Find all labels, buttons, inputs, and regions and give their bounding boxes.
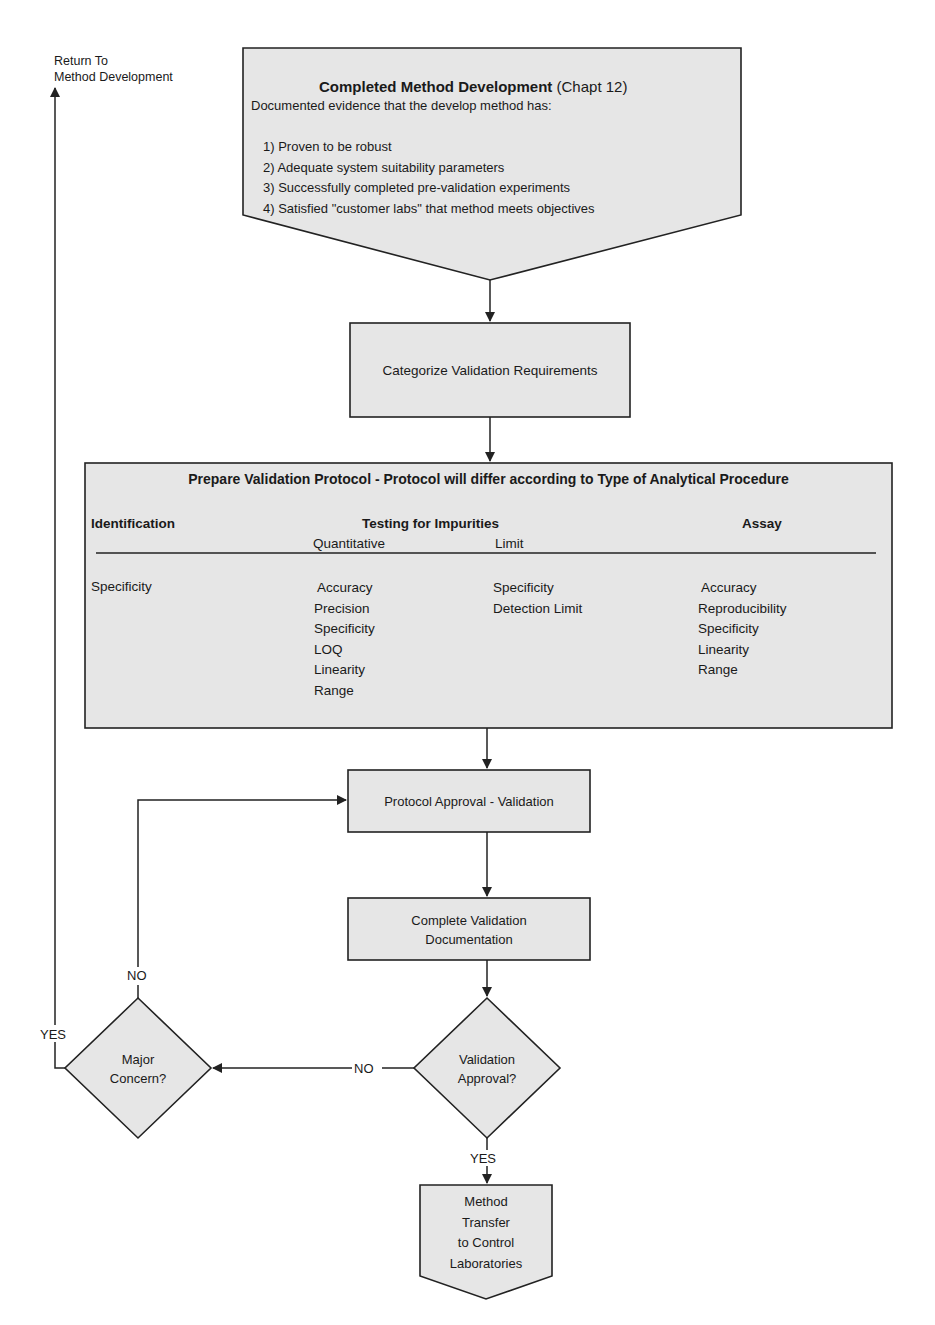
documentation-node-label: Complete Validation Documentation [348, 911, 590, 949]
end-line: Transfer [420, 1213, 552, 1234]
end-line: Method [420, 1192, 552, 1213]
assay-item: Specificity [698, 619, 787, 640]
start-node-item: 4) Satisfied "customer labs" that method… [263, 199, 595, 220]
impurities-header: Testing for Impurities [362, 515, 499, 532]
start-node-title-row: Completed Method Development (Chapt 12) [319, 78, 627, 95]
quantitative-item: Linearity [314, 660, 375, 681]
categorize-node-label: Categorize Validation Requirements [350, 362, 630, 379]
quantitative-item: Accuracy [314, 578, 375, 599]
assay-item: Range [698, 660, 787, 681]
end-node-label: Method Transfer to Control Laboratories [420, 1192, 552, 1274]
protocol-node-title: Prepare Validation Protocol - Protocol w… [85, 471, 892, 488]
approval-node-label: Protocol Approval - Validation [348, 793, 590, 810]
validation-yes-label: YES [470, 1151, 496, 1166]
concern-line2: Concern? [65, 1069, 211, 1088]
concern-decision-label: Major Concern? [65, 1050, 211, 1088]
end-line: Laboratories [420, 1254, 552, 1275]
start-node-items: 1) Proven to be robust 2) Adequate syste… [263, 137, 595, 219]
quantitative-item: Specificity [314, 619, 375, 640]
concern-no-label: NO [127, 968, 147, 983]
return-label-line2: Method Development [54, 69, 173, 85]
identification-header: Identification [91, 515, 175, 532]
quantitative-item: Range [314, 681, 375, 702]
validation-no-label: NO [354, 1061, 374, 1076]
start-node-item: 1) Proven to be robust [263, 137, 595, 158]
start-node-title: Completed Method Development [319, 78, 552, 95]
return-to-method-development-label: Return To Method Development [54, 53, 173, 85]
end-line: to Control [420, 1233, 552, 1254]
start-node-title-suffix: (Chapt 12) [557, 78, 628, 95]
quantitative-items: Accuracy Precision Specificity LOQ Linea… [314, 578, 375, 701]
start-node-item: 3) Successfully completed pre-validation… [263, 178, 595, 199]
documentation-line2: Documentation [348, 930, 590, 949]
validation-line1: Validation [414, 1050, 560, 1069]
assay-header: Assay [742, 515, 782, 532]
start-node-intro: Documented evidence that the develop met… [251, 97, 552, 114]
connector-concern-no-loop-upper [138, 800, 346, 967]
quantitative-subheader: Quantitative [313, 535, 385, 552]
validation-line2: Approval? [414, 1069, 560, 1088]
limit-item: Detection Limit [493, 599, 582, 620]
return-label-line1: Return To [54, 53, 173, 69]
identification-item: Specificity [91, 577, 152, 598]
validation-decision-label: Validation Approval? [414, 1050, 560, 1088]
limit-items: Specificity Detection Limit [493, 578, 582, 619]
connector-concern-yes-lower [55, 1042, 65, 1068]
documentation-line1: Complete Validation [348, 911, 590, 930]
limit-item: Specificity [493, 578, 582, 599]
limit-subheader: Limit [495, 535, 524, 552]
assay-item: Linearity [698, 640, 787, 661]
quantitative-item: Precision [314, 599, 375, 620]
start-node-item: 2) Adequate system suitability parameter… [263, 158, 595, 179]
concern-yes-label: YES [40, 1027, 66, 1042]
quantitative-item: LOQ [314, 640, 375, 661]
concern-line1: Major [65, 1050, 211, 1069]
assay-item: Reproducibility [698, 599, 787, 620]
assay-item: Accuracy [698, 578, 787, 599]
identification-items: Specificity [91, 577, 152, 598]
assay-items: Accuracy Reproducibility Specificity Lin… [698, 578, 787, 681]
